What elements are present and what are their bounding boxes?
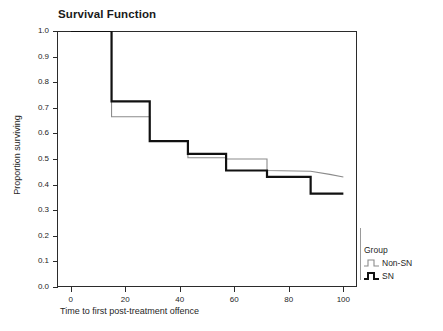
step-line-icon [364, 271, 379, 281]
y-tick-label: 0.7 [27, 103, 49, 112]
x-axis-title: Time to first post-treatment offence [60, 306, 199, 316]
legend-entries: Non-SNSN [364, 257, 442, 282]
x-tick-mark [71, 287, 72, 292]
y-tick-mark [53, 185, 58, 186]
y-tick-label: 0.4 [27, 180, 49, 189]
legend-entry-label: Non-SN [382, 258, 412, 268]
x-tick-label: 0 [58, 295, 84, 304]
legend-entry-non-sn[interactable]: Non-SN [364, 257, 442, 269]
x-tick-mark [343, 287, 344, 292]
x-tick-label: 40 [167, 295, 193, 304]
x-tick-label: 80 [276, 295, 302, 304]
x-tick-mark [125, 287, 126, 292]
y-tick-mark [53, 57, 58, 58]
y-tick-mark [53, 31, 58, 32]
y-tick-mark [53, 236, 58, 237]
y-tick-label: 0.9 [27, 52, 49, 61]
y-tick-label: 0.0 [27, 282, 49, 291]
y-tick-mark [53, 287, 58, 288]
y-tick-mark [53, 159, 58, 160]
y-tick-mark [53, 261, 58, 262]
x-tick-mark [180, 287, 181, 292]
y-tick-mark [53, 133, 58, 134]
legend-entry-sn[interactable]: SN [364, 270, 442, 282]
y-tick-label: 0.8 [27, 77, 49, 86]
survival-function-chart: Survival Function 0.00.10.20.30.40.50.60… [0, 0, 443, 331]
y-tick-label: 0.2 [27, 231, 49, 240]
y-tick-label: 1.0 [27, 26, 49, 35]
y-tick-label: 0.1 [27, 256, 49, 265]
x-tick-label: 60 [221, 295, 247, 304]
y-tick-mark [53, 82, 58, 83]
x-tick-label: 100 [330, 295, 356, 304]
x-tick-mark [234, 287, 235, 292]
plot-area [57, 31, 357, 287]
y-tick-label: 0.6 [27, 128, 49, 137]
y-tick-mark [53, 210, 58, 211]
x-tick-label: 20 [112, 295, 138, 304]
y-tick-label: 0.3 [27, 205, 49, 214]
x-tick-mark [289, 287, 290, 292]
legend: Group Non-SNSN [364, 245, 442, 282]
y-axis-title: Proportion surviving [12, 90, 22, 220]
y-tick-mark [53, 108, 58, 109]
legend-divider [360, 228, 361, 280]
y-tick-label: 0.5 [27, 154, 49, 163]
legend-entry-label: SN [382, 271, 394, 281]
step-line-icon [364, 258, 379, 268]
legend-title: Group [364, 245, 442, 255]
chart-title: Survival Function [58, 8, 156, 20]
